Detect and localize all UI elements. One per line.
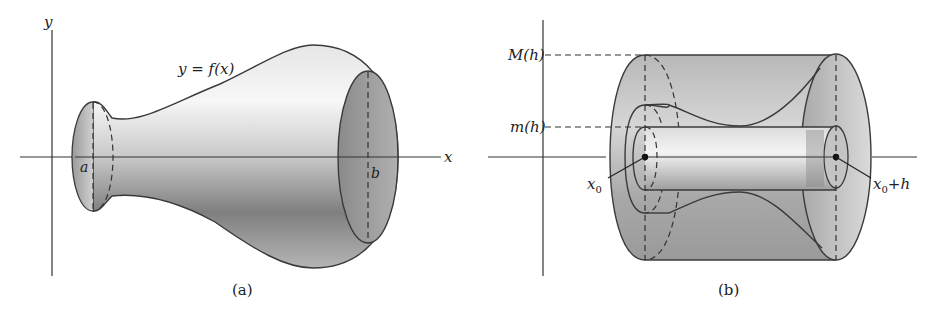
figure-canvas: y x a b y = f(x) (a) xyxy=(0,0,938,309)
endpoint-a-label: a xyxy=(80,159,88,175)
max-label: M(h) xyxy=(507,46,545,64)
figure-b: M(h) m(h) x0 x0+h (b) xyxy=(488,20,917,299)
x0-label: x0 xyxy=(587,175,602,195)
figure-a: y x a b y = f(x) (a) xyxy=(20,13,453,299)
outer-cylinder-left-face xyxy=(610,55,645,260)
endpoint-b-label: b xyxy=(371,165,380,181)
curve-label: y = f(x) xyxy=(177,60,234,78)
x-axis-label: x xyxy=(444,148,453,166)
caption-a: (a) xyxy=(232,281,253,299)
y-axis-label: y xyxy=(43,13,53,31)
min-label: m(h) xyxy=(510,118,546,136)
inner-shadow xyxy=(806,130,824,187)
caption-b: (b) xyxy=(718,281,739,299)
x0-plus-h-label: x0+h xyxy=(873,175,910,195)
